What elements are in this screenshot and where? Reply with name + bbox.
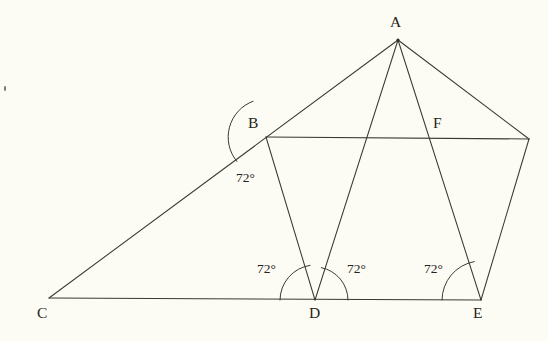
stray-speck xyxy=(4,86,6,91)
vertex-dots-group xyxy=(396,38,399,41)
angle-D-right-arc xyxy=(321,268,348,300)
vertex-dot-A xyxy=(396,38,399,41)
segments-group xyxy=(49,40,529,300)
angle-D-left-label: 72° xyxy=(257,262,276,276)
vertex-label-A: A xyxy=(390,14,401,30)
vertex-label-F: F xyxy=(433,115,442,131)
vertex-label-C: C xyxy=(37,305,47,321)
angle-E-label: 72° xyxy=(424,262,443,276)
angle-D-right-label: 72° xyxy=(347,262,366,276)
angle-B-label: 72° xyxy=(236,171,255,185)
geometry-figure: ABCDEF 72°72°72°72° xyxy=(0,0,548,341)
segment-C-E xyxy=(49,298,481,300)
angle-E-arc xyxy=(442,262,474,300)
vertex-label-E: E xyxy=(473,305,482,321)
segment-E-G xyxy=(481,139,529,300)
geometry-canvas xyxy=(0,0,548,341)
vertex-label-B: B xyxy=(248,115,258,131)
segment-B-G xyxy=(266,137,529,139)
angle-B-arc xyxy=(228,101,253,161)
vertex-label-D: D xyxy=(309,305,320,321)
segment-C-A xyxy=(49,40,398,298)
segment-A-G xyxy=(398,40,529,139)
